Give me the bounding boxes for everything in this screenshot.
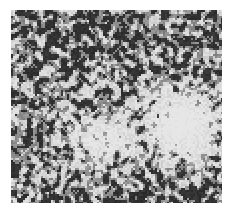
noise-texture-image [11, 10, 222, 203]
noise-canvas [11, 10, 222, 203]
